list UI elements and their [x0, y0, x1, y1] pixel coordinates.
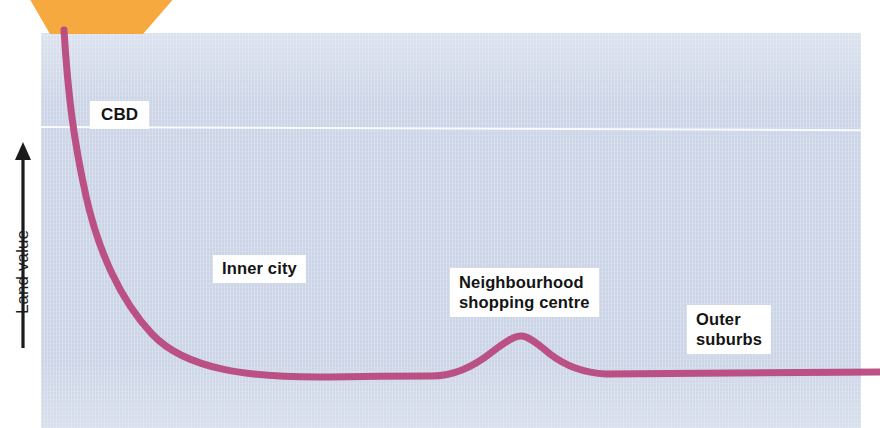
horizontal-gridline: [41, 126, 861, 131]
plot-area: [41, 33, 861, 428]
cbd-marker-icon: [0, 0, 260, 36]
paper-texture: [41, 33, 861, 428]
label-inner-city: Inner city: [213, 255, 306, 283]
y-axis: Land value: [0, 140, 41, 428]
plot-vignette: [41, 33, 861, 428]
label-neighbourhood-shopping-centre: Neighbourhood shopping centre: [450, 268, 599, 317]
land-value-diagram: Land value CBD Inner city Neighbourhood …: [0, 0, 880, 428]
y-axis-label: Land value: [13, 177, 33, 367]
label-outer-suburbs: Outer suburbs: [687, 305, 771, 354]
label-cbd: CBD: [90, 101, 149, 129]
